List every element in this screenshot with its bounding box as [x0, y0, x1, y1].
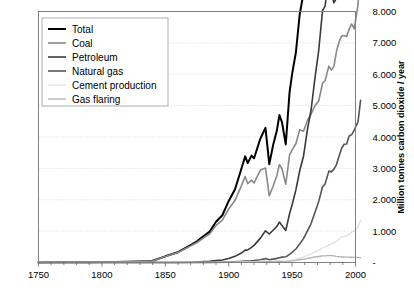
y-tick-label-8000: 8.000 [373, 6, 397, 17]
x-tick-label-1950: 1950 [282, 269, 303, 280]
y-tick-label-5000: 5.000 [373, 100, 397, 111]
x-tick-label-1800: 1800 [91, 269, 112, 280]
y-axis: -1.0002.0003.0004.0005.0006.0007.0008.00… [373, 6, 397, 268]
x-axis: 175018001850190019502000 [28, 263, 366, 280]
y-tick-label-2000: 2.000 [373, 194, 397, 205]
x-tick-label-2000: 2000 [345, 269, 366, 280]
legend-label-cement-production: Cement production [72, 80, 157, 91]
legend-label-petroleum: Petroleum [72, 52, 118, 63]
legend-label-natural-gas: Natural gas [72, 66, 123, 77]
legend-label-coal: Coal [72, 38, 93, 49]
y-tick-label-4000: 4.000 [373, 132, 397, 143]
chart-container: 175018001850190019502000-1.0002.0003.000… [0, 0, 414, 288]
legend-label-total: Total [72, 24, 93, 35]
x-tick-label-1900: 1900 [218, 269, 239, 280]
legend-label-gas-flaring: Gas flaring [72, 94, 120, 105]
y-tick-label-0: - [373, 257, 376, 268]
y-axis-title: Million tonnes carbon dioxide / year [396, 60, 406, 214]
x-tick-label-1750: 1750 [28, 269, 49, 280]
legend: TotalCoalPetroleumNatural gasCement prod… [42, 18, 168, 106]
x-tick-label-1850: 1850 [155, 269, 176, 280]
emissions-line-chart: 175018001850190019502000-1.0002.0003.000… [0, 0, 414, 288]
y-tick-label-1000: 1.000 [373, 226, 397, 237]
y-tick-label-6000: 6.000 [373, 69, 397, 80]
y-tick-label-7000: 7.000 [373, 37, 397, 48]
y-tick-label-3000: 3.000 [373, 163, 397, 174]
